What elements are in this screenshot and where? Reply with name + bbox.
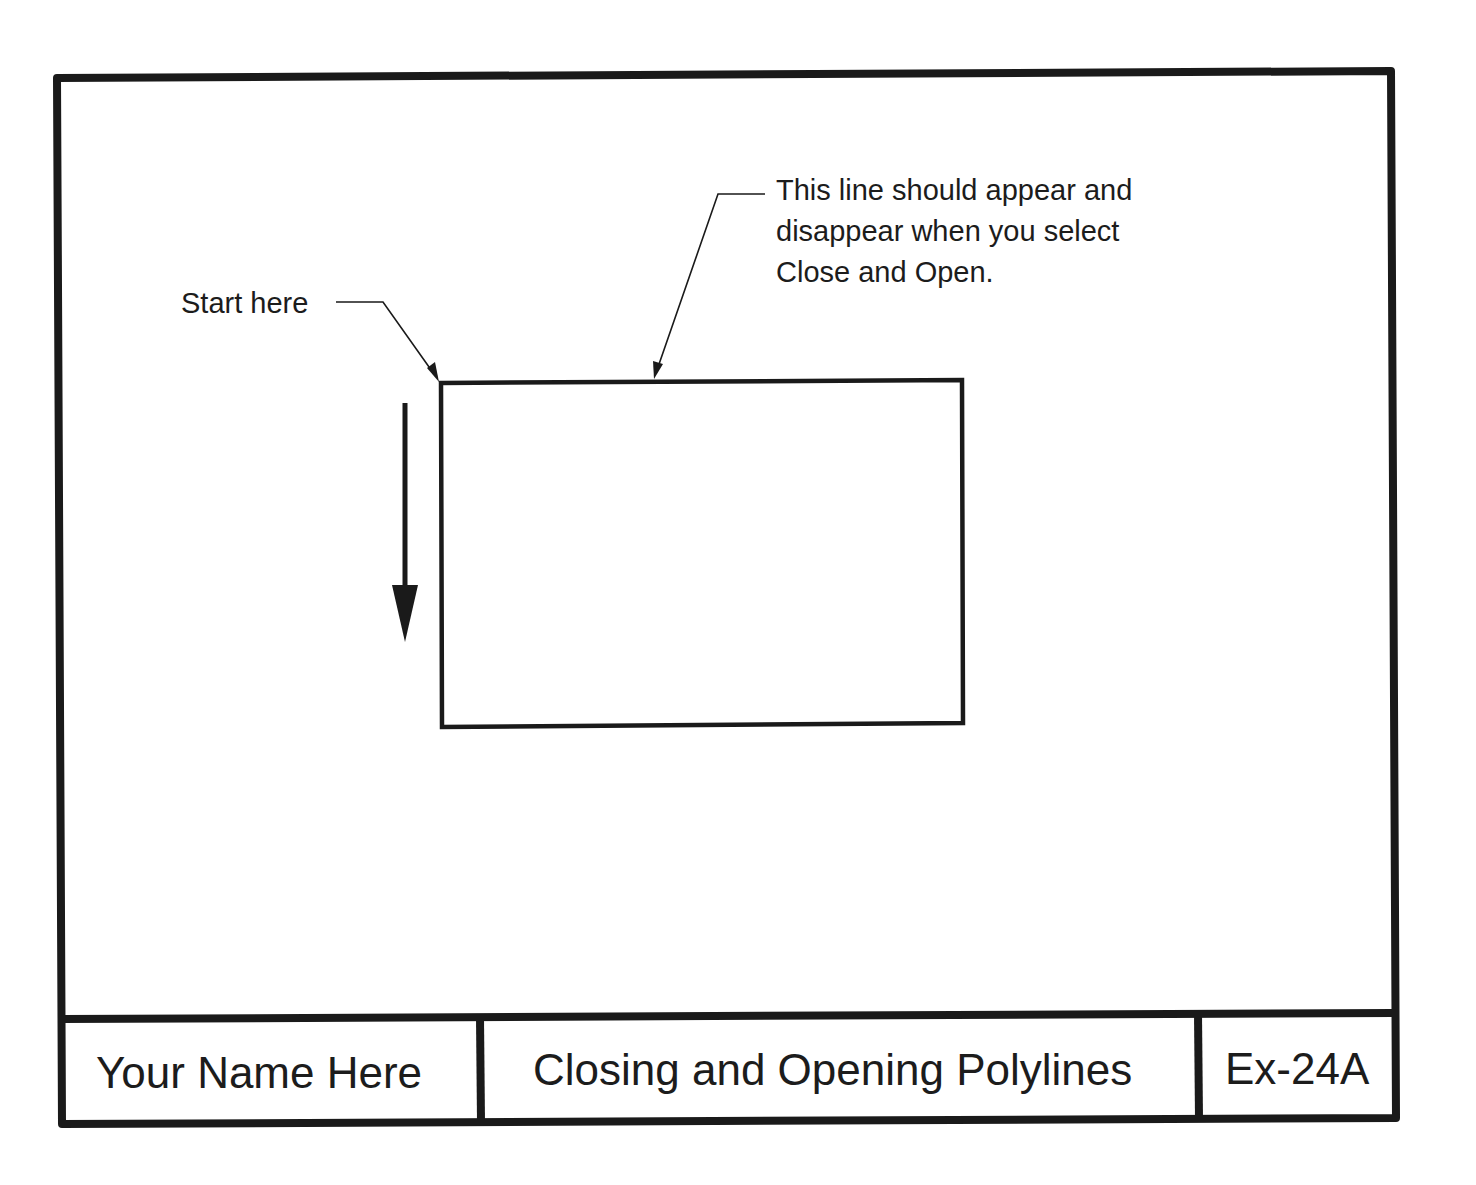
start-here-leader — [336, 302, 434, 374]
drawing-sheet — [0, 0, 1476, 1185]
closing-note-leader — [657, 194, 765, 370]
title-block-title: Closing and Opening Polylines — [533, 1048, 1132, 1092]
closing-note-line-2: disappear when you select — [776, 211, 1132, 252]
closing-segment-note: This line should appear and disappear wh… — [776, 170, 1132, 293]
closing-note-line-3: Close and Open. — [776, 252, 1132, 293]
title-block-divider-2 — [1198, 1014, 1199, 1118]
arrow-down-icon — [392, 403, 418, 642]
start-here-arrowhead-icon — [427, 362, 439, 382]
closing-note-arrowhead-icon — [653, 361, 663, 379]
start-here-label: Start here — [181, 289, 308, 318]
closing-note-line-1: This line should appear and — [776, 170, 1132, 211]
polyline-rectangle[interactable] — [441, 380, 963, 727]
title-block-divider-1 — [480, 1018, 481, 1122]
outer-border — [57, 71, 1396, 1124]
title-block-exercise-number: Ex-24A — [1225, 1047, 1369, 1091]
title-block-name: Your Name Here — [96, 1051, 422, 1095]
